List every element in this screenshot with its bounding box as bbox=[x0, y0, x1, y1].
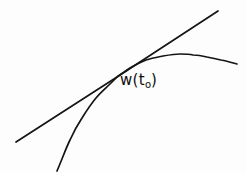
tangent-diagram-figure: w(to) bbox=[0, 0, 246, 173]
tangency-label-base-prefix: w(t bbox=[120, 71, 145, 89]
tangency-point-label: w(to) bbox=[120, 73, 157, 90]
tangency-label-base-suffix: ) bbox=[151, 71, 157, 89]
